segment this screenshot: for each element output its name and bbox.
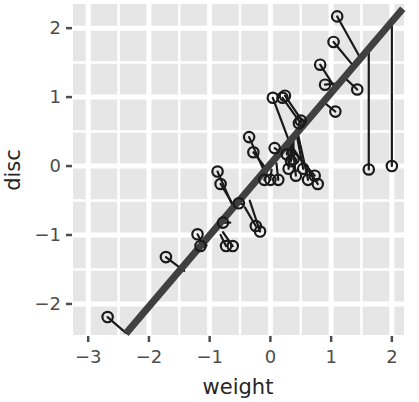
x-tick-label: −3 — [75, 346, 102, 367]
data-point — [320, 79, 330, 89]
x-tick-label: 1 — [325, 346, 336, 367]
data-point — [364, 164, 374, 174]
data-point — [228, 241, 238, 251]
y-tick-label: 2 — [50, 17, 61, 38]
y-tick-label: −2 — [34, 293, 61, 314]
plot-panel-background — [73, 4, 404, 335]
data-point — [195, 241, 205, 251]
data-point — [248, 147, 258, 157]
data-point — [218, 217, 228, 227]
data-point — [280, 91, 290, 101]
data-point — [328, 37, 338, 47]
data-point — [273, 175, 283, 185]
y-tick-label: 1 — [50, 86, 61, 107]
x-tick-label: −1 — [196, 346, 223, 367]
data-point — [352, 84, 362, 94]
data-point — [192, 229, 202, 239]
x-tick-label: −2 — [136, 346, 163, 367]
data-point — [212, 166, 222, 176]
data-point — [387, 161, 397, 171]
data-point — [288, 154, 298, 164]
data-point — [313, 179, 323, 189]
x-axis-title: weight — [203, 375, 274, 399]
y-axis-title: disc — [1, 149, 25, 191]
x-tick-label: 2 — [386, 346, 397, 367]
scatter-plot-figure: −3−2−1012−2−1012 weight disc — [0, 0, 419, 402]
data-point — [255, 226, 265, 236]
data-point — [315, 59, 325, 69]
data-point — [298, 164, 308, 174]
data-point — [161, 252, 171, 262]
data-point — [269, 143, 279, 153]
y-tick-label: 0 — [50, 155, 61, 176]
x-tick-label: 0 — [265, 346, 276, 367]
data-point — [102, 312, 112, 322]
data-point — [234, 198, 244, 208]
data-point — [332, 11, 342, 21]
plot-canvas: −3−2−1012−2−1012 weight disc — [0, 0, 419, 402]
y-tick-label: −1 — [34, 224, 61, 245]
data-point — [330, 106, 340, 116]
data-point — [215, 179, 225, 189]
data-point — [244, 132, 254, 142]
data-point — [296, 115, 306, 125]
